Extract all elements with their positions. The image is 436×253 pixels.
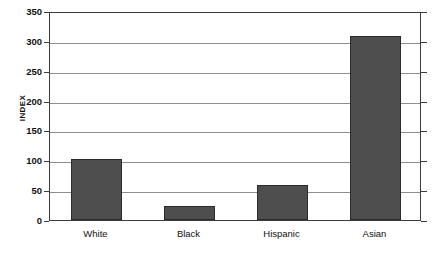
y-axis-tick-label: 50 [14, 186, 42, 196]
bar [164, 206, 216, 220]
bar [350, 36, 402, 220]
y-axis-tick-mark-right [421, 131, 427, 132]
y-axis-tick-label: 200 [14, 97, 42, 107]
y-axis-tick-label: 0 [14, 216, 42, 226]
y-axis-tick-label: 150 [14, 127, 42, 137]
y-axis-tick-mark-right [421, 102, 427, 103]
bars-group [50, 13, 420, 220]
x-axis-tick-label: Black [177, 228, 200, 239]
bar [71, 159, 123, 220]
x-axis-tick-label: Hispanic [263, 228, 299, 239]
y-axis-tick-label: 300 [14, 37, 42, 47]
y-axis-tick-mark-right [421, 42, 427, 43]
y-axis-tick-label: 250 [14, 67, 42, 77]
y-axis-tick-mark-right [421, 72, 427, 73]
y-axis-tick-label: 350 [14, 7, 42, 17]
x-axis-tick-labels: WhiteBlackHispanicAsian [49, 228, 421, 248]
y-axis-tick-label: 100 [14, 157, 42, 167]
y-axis-tick-mark-left [44, 221, 49, 222]
y-axis-tick-mark-right [421, 191, 427, 192]
y-axis-tick-mark-right [421, 161, 427, 162]
y-axis-tick-mark-right [421, 12, 427, 13]
x-axis-tick-label: White [83, 228, 107, 239]
y-axis-tick-mark-right [421, 221, 427, 222]
bar-chart: INDEX 350300250200150100500 WhiteBlackHi… [0, 0, 436, 253]
y-axis-tick-labels: 350300250200150100500 [14, 0, 42, 253]
x-axis-tick-label: Asian [363, 228, 387, 239]
bar [257, 185, 309, 220]
plot-area [49, 12, 421, 221]
